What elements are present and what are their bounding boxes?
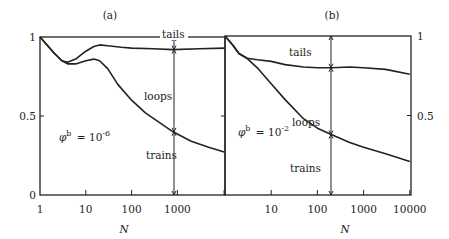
tails-boundary-curve <box>40 37 225 62</box>
region-label-trains: trains <box>146 149 177 161</box>
phi-annotation: φb = 10-6 <box>59 129 110 143</box>
x-axis-label: N <box>118 223 129 235</box>
region-label-loops: loops <box>292 116 320 128</box>
y-tick-label: 0.5 <box>417 110 434 122</box>
chart-figure: (a)1101001000N00.51tailsloopstrainsφb = … <box>0 0 449 239</box>
y-tick-label: 0 <box>29 189 36 201</box>
panel-a: (a)1101001000N00.51tailsloopstrainsφb = … <box>19 9 225 235</box>
x-tick-label: 100 <box>122 203 142 215</box>
plot-frame <box>40 37 225 195</box>
x-tick-label: 10 <box>79 203 92 215</box>
panel-label: (b) <box>325 9 340 21</box>
x-tick-label: 1 <box>37 203 44 215</box>
tails-boundary-curve <box>225 36 410 74</box>
region-label-loops: loops <box>144 90 172 102</box>
x-tick-label: 10000 <box>393 203 426 215</box>
panel-label: (a) <box>103 9 117 21</box>
region-label-tails: tails <box>162 28 185 40</box>
y-tick-label: 1 <box>29 31 36 43</box>
region-label-trains: trains <box>290 162 321 174</box>
region-label-tails: tails <box>289 46 312 58</box>
trains-boundary-curve <box>225 36 410 162</box>
x-tick-label: 100 <box>307 203 327 215</box>
panel-b: (b)10100100010000N0.51tailsloopstrainsφb… <box>225 9 434 235</box>
y-tick-label: 1 <box>417 30 424 42</box>
x-tick-label: 10 <box>265 203 278 215</box>
y-tick-label: 0.5 <box>19 110 36 122</box>
x-axis-label: N <box>339 223 350 235</box>
phi-annotation: φb = 10-2 <box>238 124 289 138</box>
x-tick-label: 1000 <box>350 203 377 215</box>
x-tick-label: 1000 <box>164 203 191 215</box>
